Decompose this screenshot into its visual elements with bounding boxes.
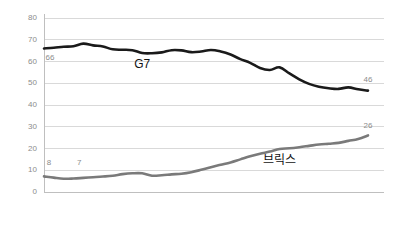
series-label-g7: G7 <box>134 57 150 71</box>
y-tick-10: 10 <box>28 165 37 174</box>
y-tick-60: 60 <box>28 57 37 66</box>
point-label-8: 8 <box>47 158 52 167</box>
point-label-46: 46 <box>364 75 373 84</box>
point-label-26: 26 <box>364 121 373 130</box>
point-label-7: 7 <box>77 158 82 167</box>
y-tick-40: 40 <box>28 100 37 109</box>
y-tick-30: 30 <box>28 122 37 131</box>
line-chart: 01020304050607080 1990199219941996199820… <box>0 0 395 231</box>
series-line-brics <box>44 135 368 178</box>
series-label-brics: 브릭스 <box>263 153 296 167</box>
y-axis-tick-labels: 01020304050607080 <box>28 13 37 196</box>
y-tick-80: 80 <box>28 13 37 22</box>
y-tick-50: 50 <box>28 78 37 87</box>
chart-annotations: G7브릭스66874626 <box>45 53 373 167</box>
y-tick-0: 0 <box>33 187 38 196</box>
point-label-66: 66 <box>45 53 54 62</box>
y-tick-70: 70 <box>28 35 37 44</box>
y-tick-20: 20 <box>28 144 37 153</box>
chart-container: 01020304050607080 1990199219941996199820… <box>0 0 395 231</box>
